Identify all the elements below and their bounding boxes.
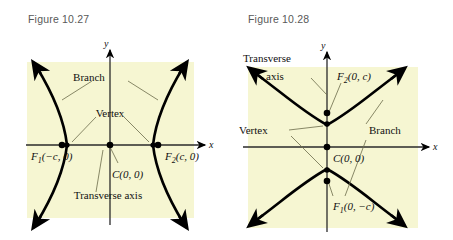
figure-10-28: Figure 10.28 y x [223,0,453,240]
vertex-left-point [64,142,69,147]
focus-left-point [59,142,66,149]
y-axis-label: y [103,38,109,49]
transverse-axis-label: Transverse axis [74,189,142,201]
vertex-label: Vertex [96,107,125,119]
figure-10-27: Figure 10.27 y x [0,0,226,240]
y-axis-label: y [320,40,326,51]
transverse-axis-label-line2: axis [266,70,284,82]
focus-right-point [155,142,162,149]
branch-label: Branch [73,71,105,83]
vertex-label: Vertex [239,124,268,136]
vertex-lower-point [324,167,330,173]
center-label: C(0, 0) [112,168,144,181]
transverse-axis-label-line1: Transverse [243,52,291,64]
x-axis-label: x [432,141,438,152]
center-point [324,144,331,151]
center-point [107,142,114,149]
focus-lower-point [324,178,331,185]
figure-10-27-plot: y x Branch Vertex Transverse axis F1(−c,… [0,0,226,240]
x-axis-label: x [208,139,214,150]
vertex-upper-point [324,121,330,127]
figure-10-28-plot: y x Transverse axis Vertex Branch F2(0, … [223,0,453,240]
center-label: C(0, 0) [333,152,365,165]
branch-label: Branch [369,124,401,136]
focus-upper-point [324,110,331,117]
